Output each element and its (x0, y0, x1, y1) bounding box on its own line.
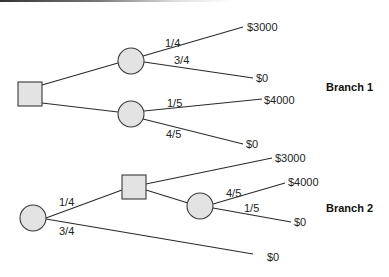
prob-label: 1/4 (165, 37, 180, 49)
payoff-label: $4000 (288, 176, 319, 188)
edge-top-3-4 (144, 62, 253, 78)
payoff-label: $3000 (247, 21, 278, 33)
chance-node-bottom (118, 101, 144, 127)
edge-inner-4-5 (213, 183, 285, 204)
edge-root-3-4 (46, 219, 253, 254)
edge-bottom-4-5 (143, 119, 243, 144)
decision-tree-diagram: 1/4 3/4 1/5 4/5 $3000 $0 $4000 $0 Branch… (0, 0, 389, 277)
edge-decision-to-3000 (146, 158, 272, 184)
edge-decision-to-chance-top (42, 63, 118, 85)
branch-2-label: Branch 2 (326, 202, 373, 214)
edge-bottom-1-5 (144, 99, 262, 111)
payoff-label: $0 (267, 251, 279, 263)
prob-label: 3/4 (59, 225, 74, 237)
decision-node-branch2 (122, 175, 146, 199)
chance-node-top (118, 48, 144, 74)
prob-label: 1/5 (244, 202, 259, 214)
chance-node-branch2-inner (187, 193, 213, 219)
payoff-label: $0 (256, 72, 268, 84)
prob-label: 4/5 (226, 187, 241, 199)
decision-node-branch1 (18, 82, 42, 106)
prob-label: 3/4 (174, 54, 189, 66)
prob-label: 4/5 (166, 128, 181, 140)
payoff-label: $4000 (264, 94, 295, 106)
payoff-label: $3000 (275, 152, 306, 164)
chance-node-branch2-root (20, 205, 46, 231)
payoff-label: $0 (246, 138, 258, 150)
edge-decision-to-chance-bottom (42, 103, 118, 112)
edge-top-1-4 (143, 27, 243, 56)
edge-root-1-4 (46, 190, 122, 218)
prob-label: 1/4 (59, 196, 74, 208)
prob-label: 1/5 (167, 97, 182, 109)
branch-1-label: Branch 1 (326, 81, 373, 93)
payoff-label: $0 (294, 216, 306, 228)
branch1-edges (42, 27, 262, 144)
edge-decision-to-chance (146, 190, 188, 203)
